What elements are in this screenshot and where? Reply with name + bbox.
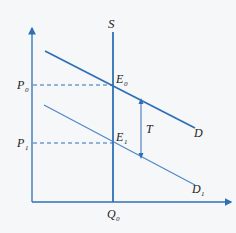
label-tax: T: [146, 122, 154, 136]
label-d1-sub: 1: [201, 190, 205, 198]
label-p1-sub: 1: [25, 144, 29, 152]
label-d1: D: [191, 182, 201, 196]
label-e0-sub: 0: [124, 80, 128, 88]
label-q0: Q: [107, 207, 116, 221]
demand-line: [45, 51, 195, 128]
label-d: D: [193, 126, 203, 140]
label-s: S: [108, 16, 115, 31]
label-p0: P: [16, 78, 25, 92]
diagram-canvas: S D D 1 E 0 E 1 P 0 P 1 Q 0 T: [0, 0, 236, 233]
label-e1-sub: 1: [124, 138, 128, 146]
tax-incidence-diagram: S D D 1 E 0 E 1 P 0 P 1 Q 0 T: [0, 0, 236, 233]
label-p0-sub: 0: [25, 86, 29, 94]
label-q0-sub: 0: [116, 215, 120, 223]
label-e0: E: [115, 72, 124, 86]
label-e1: E: [115, 130, 124, 144]
label-p1: P: [16, 136, 25, 150]
